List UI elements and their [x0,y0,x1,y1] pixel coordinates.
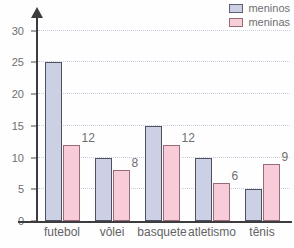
x-axis-labels: futebolvôleibasqueteatletismotênis [0,0,294,248]
legend-item-meninas: meninas [229,16,290,28]
legend-label-meninos: meninos [248,3,290,14]
legend-swatch-meninas [229,18,243,27]
legend-item-meninos: meninos [229,2,290,14]
x-tick-label-basquete: basquete [137,225,186,239]
x-tick-label-atletismo: atletismo [188,225,236,239]
bar-chart: meninos meninas 051015202530 1281269 fut… [0,0,294,248]
legend-label-meninas: meninas [248,17,290,28]
x-tick-label-futebol: futebol [44,225,80,239]
x-tick-label-tênis: tênis [249,225,274,239]
x-tick-label-vôlei: vôlei [100,225,125,239]
legend-swatch-meninos [229,4,243,13]
chart-legend: meninos meninas [229,2,290,28]
